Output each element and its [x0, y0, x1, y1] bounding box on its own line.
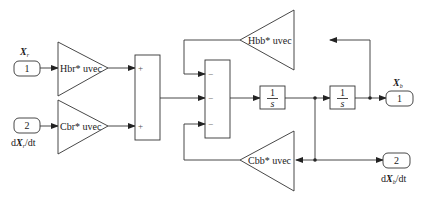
integrator-2[interactable]: 1 s	[330, 86, 355, 109]
gain-hbb[interactable]: Hbb* uvec	[240, 10, 294, 70]
block-diagram-canvas: 1 Xr 2 dXr/dt Hbr* uvec Cbr* uvec + + − …	[0, 0, 425, 203]
inport-1-number: 1	[25, 63, 30, 74]
gain-cbr-label: Cbr* uvec	[60, 121, 102, 132]
gain-hbr-label: Hbr* uvec	[60, 63, 102, 74]
integrator-1[interactable]: 1 s	[260, 86, 285, 109]
outport-2-label: dXb/dt	[381, 173, 406, 185]
outport-2-number: 2	[394, 155, 399, 166]
inport-2[interactable]: 2	[14, 118, 40, 133]
outport-2[interactable]: 2	[383, 153, 410, 168]
gain-cbb[interactable]: Cbb* uvec	[240, 131, 294, 191]
integrator-2-num: 1	[340, 87, 345, 98]
gain-cbr[interactable]: Cbr* uvec	[58, 100, 108, 154]
gain-hbb-label: Hbb* uvec	[248, 35, 292, 46]
integrator-1-den: s	[271, 98, 275, 109]
sum-block-2[interactable]: − − −	[205, 60, 230, 138]
sum2-sign-1: −	[208, 69, 213, 79]
sum1-sign-2: +	[138, 121, 143, 131]
inport-2-label: dXr/dt	[11, 137, 36, 149]
sum-block-1[interactable]: + +	[135, 55, 160, 140]
sum2-sign-3: −	[208, 119, 213, 129]
outport-1-number: 1	[397, 93, 402, 104]
sum1-sign-1: +	[138, 63, 143, 73]
sum2-sign-2: −	[208, 93, 213, 103]
inport-2-number: 2	[25, 120, 30, 131]
integrator-2-den: s	[341, 98, 345, 109]
outport-1-label: Xb	[392, 77, 403, 89]
integrator-1-num: 1	[270, 87, 275, 98]
inport-1-label: Xr	[19, 46, 30, 58]
outport-1[interactable]: 1	[386, 91, 413, 106]
gain-cbb-label: Cbb* uvec	[248, 155, 292, 166]
inport-1[interactable]: 1	[14, 61, 40, 76]
gain-hbr[interactable]: Hbr* uvec	[58, 42, 108, 96]
